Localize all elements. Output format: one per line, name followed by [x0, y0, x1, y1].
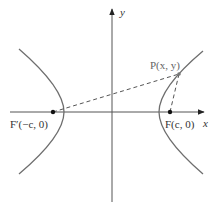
- x-axis-label: x: [202, 117, 208, 129]
- focus-left-dot: [51, 110, 55, 114]
- hyperbola-diagram: y x F′(−c, 0) F(c, 0) P(x, y): [0, 0, 219, 206]
- point-p-dot: [177, 72, 181, 76]
- focus-right-dot: [168, 110, 172, 114]
- focus-right-label: F(c, 0): [165, 118, 195, 131]
- focus-left-label: F′(−c, 0): [10, 118, 48, 131]
- y-axis-label: y: [119, 6, 125, 18]
- point-p-label: P(x, y): [150, 59, 180, 72]
